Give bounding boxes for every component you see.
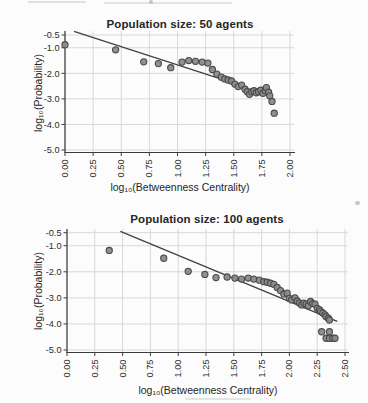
chart-50-agents: Population size: 50 agents log₁₀(Probabi… <box>0 0 368 200</box>
svg-text:2.00: 2.00 <box>285 160 295 178</box>
svg-text:2.50: 2.50 <box>340 360 350 378</box>
svg-text:1.75: 1.75 <box>257 160 267 178</box>
x-axis-label: log₁₀(Betweenness Centrality) <box>65 181 295 193</box>
scanned-figure-page: Population size: 50 agents log₁₀(Probabi… <box>0 0 368 403</box>
svg-text:0.00: 0.00 <box>60 160 70 178</box>
svg-text:1.50: 1.50 <box>229 160 239 178</box>
svg-text:-0.5: -0.5 <box>46 228 62 238</box>
svg-text:1.25: 1.25 <box>201 360 211 378</box>
svg-text:-2.0: -2.0 <box>44 69 60 79</box>
svg-text:1.75: 1.75 <box>257 360 267 378</box>
scatter-plot-100-agents: 0.000.250.500.751.001.251.501.752.002.25… <box>0 200 368 403</box>
svg-text:1.25: 1.25 <box>201 160 211 178</box>
x-axis-label: log₁₀(Betweenness Centrality) <box>67 384 349 396</box>
chart-100-agents: Population size: 100 agents log₁₀(Probab… <box>0 200 368 403</box>
svg-text:0.00: 0.00 <box>62 360 72 378</box>
svg-text:1.50: 1.50 <box>229 360 239 378</box>
scatter-plot-50-agents: 0.000.250.500.751.001.251.501.752.00-0.5… <box>0 0 368 200</box>
svg-text:1.00: 1.00 <box>173 360 183 378</box>
svg-text:-3.0: -3.0 <box>46 293 62 303</box>
svg-text:-5.0: -5.0 <box>46 345 62 355</box>
svg-text:-4.0: -4.0 <box>46 319 62 329</box>
svg-text:-4.0: -4.0 <box>44 120 60 130</box>
svg-text:-3.0: -3.0 <box>44 94 60 104</box>
svg-text:0.75: 0.75 <box>145 360 155 378</box>
svg-text:-1.0: -1.0 <box>46 241 62 251</box>
svg-text:0.50: 0.50 <box>118 360 128 378</box>
svg-text:0.25: 0.25 <box>88 160 98 178</box>
svg-text:-2.0: -2.0 <box>46 267 62 277</box>
svg-text:0.75: 0.75 <box>144 160 154 178</box>
svg-text:2.25: 2.25 <box>312 360 322 378</box>
svg-text:0.25: 0.25 <box>90 360 100 378</box>
svg-text:0.50: 0.50 <box>116 160 126 178</box>
svg-text:-0.5: -0.5 <box>44 30 60 40</box>
svg-text:1.00: 1.00 <box>173 160 183 178</box>
svg-text:-5.0: -5.0 <box>44 145 60 155</box>
svg-text:2.00: 2.00 <box>284 360 294 378</box>
svg-text:-1.0: -1.0 <box>44 43 60 53</box>
